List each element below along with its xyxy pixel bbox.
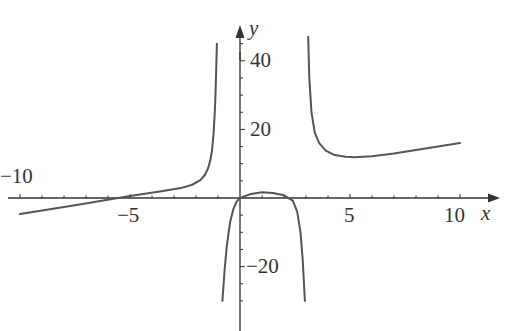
curve-1: [222, 192, 305, 301]
y-tick-label-20: 20: [250, 119, 271, 140]
x-tick-label-neg5: −5: [117, 205, 139, 226]
y-axis-label: y: [249, 18, 258, 39]
y-axis-arrow-icon: [236, 25, 245, 38]
curve-2: [308, 37, 460, 157]
x-tick-label-10: 10: [444, 205, 465, 226]
curve-0: [20, 44, 217, 214]
chart-container: −10 −5 5 10 x 40 20 −20 y: [0, 0, 508, 331]
y-tick-label-neg20: −20: [246, 256, 279, 277]
y-tick-label-40: 40: [250, 50, 271, 71]
x-tick-label-5: 5: [344, 205, 355, 226]
x-axis-label: x: [481, 203, 490, 224]
x-tick-label-neg10: −10: [0, 166, 33, 187]
